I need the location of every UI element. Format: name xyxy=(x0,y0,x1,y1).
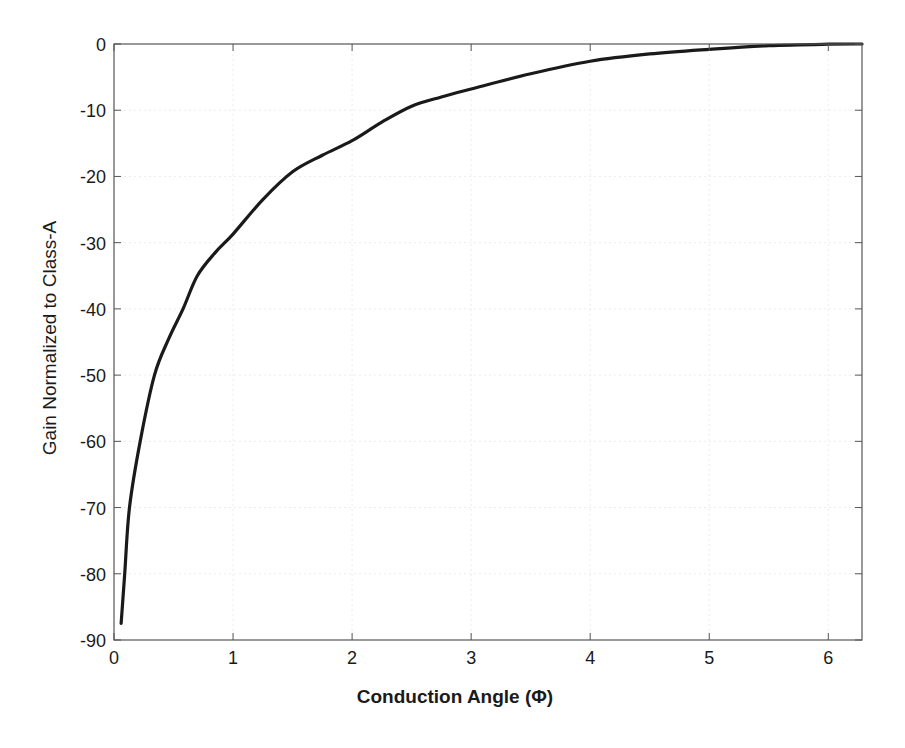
chart: 0123456 0-10-20-30-40-50-60-70-80-90 Con… xyxy=(0,0,905,748)
x-tick-label: 1 xyxy=(228,648,238,668)
x-tick-label: 6 xyxy=(823,648,833,668)
y-tick-label: -50 xyxy=(80,366,106,386)
x-tick-label: 4 xyxy=(585,648,595,668)
x-tick-label: 2 xyxy=(347,648,357,668)
y-tick-label: -70 xyxy=(80,499,106,519)
y-tick-label: -10 xyxy=(80,101,106,121)
y-tick-label: -80 xyxy=(80,565,106,585)
y-tick-label: -90 xyxy=(80,631,106,651)
y-tick-label: 0 xyxy=(96,35,106,55)
y-tick-label: -60 xyxy=(80,432,106,452)
x-tick-label: 3 xyxy=(466,648,476,668)
x-axis-title: Conduction Angle (Φ) xyxy=(357,686,553,707)
y-tick-label: -20 xyxy=(80,167,106,187)
x-tick-label: 0 xyxy=(109,648,119,668)
x-tick-label: 5 xyxy=(704,648,714,668)
y-tick-label: -40 xyxy=(80,300,106,320)
y-tick-label: -30 xyxy=(80,234,106,254)
y-axis-title: Gain Normalized to Class-A xyxy=(39,220,60,455)
plot-background xyxy=(114,44,862,640)
